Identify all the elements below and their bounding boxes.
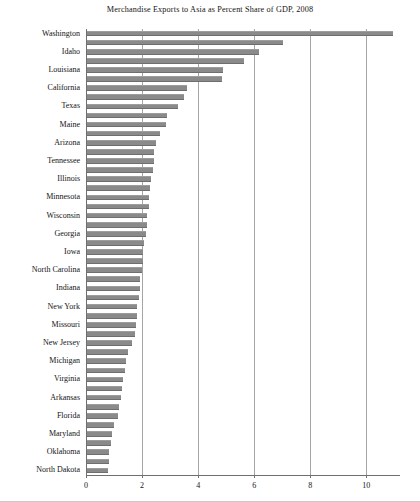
category-label: Minnesota	[46, 193, 80, 201]
gridline-10	[366, 29, 367, 475]
category-label: Iowa	[64, 248, 80, 256]
bar-fill	[87, 331, 135, 337]
bar-fill	[87, 431, 112, 437]
bar	[87, 176, 151, 182]
category-label: Michigan	[49, 357, 80, 365]
bar	[87, 76, 222, 82]
tick-mark-8	[310, 475, 311, 478]
tick-mark-10	[366, 475, 367, 478]
bar	[87, 304, 137, 310]
bar	[87, 349, 128, 355]
bar	[87, 240, 144, 246]
tick-mark-2	[142, 475, 143, 478]
bar	[87, 358, 126, 364]
category-label: North Carolina	[32, 266, 80, 274]
bar-fill	[87, 459, 109, 465]
category-label: Indiana	[56, 284, 80, 292]
bar-fill	[87, 185, 150, 191]
bar-fill	[87, 313, 137, 319]
category-label: Missouri	[52, 321, 80, 329]
bar	[87, 222, 147, 228]
bar	[87, 122, 166, 128]
category-label: North Dakota	[36, 466, 80, 474]
bar	[87, 40, 283, 46]
category-label: Maryland	[49, 430, 80, 438]
category-label: Louisiana	[48, 66, 80, 74]
bar-fill	[87, 58, 244, 64]
bar-fill	[87, 340, 132, 346]
bar-fill	[87, 468, 108, 474]
bar	[87, 67, 223, 73]
category-label: Georgia	[54, 230, 80, 238]
plot-area: 0246810	[86, 29, 400, 475]
bar	[87, 449, 109, 455]
bar-fill	[87, 140, 156, 146]
bar	[87, 295, 139, 301]
bar	[87, 377, 123, 383]
bar-fill	[87, 94, 184, 100]
bar	[87, 249, 143, 255]
bar-fill	[87, 240, 144, 246]
gridline-8	[310, 29, 311, 475]
chart-figure: Merchandise Exports to Asia as Percent S…	[0, 0, 420, 502]
bar-fill	[87, 158, 154, 164]
bar-fill	[87, 386, 122, 392]
category-label: Texas	[61, 102, 80, 110]
category-label: Idaho	[62, 48, 80, 56]
bar	[87, 149, 154, 155]
bar	[87, 195, 149, 201]
bar	[87, 58, 244, 64]
bar-fill	[87, 368, 125, 374]
category-label: Arizona	[54, 139, 80, 147]
x-tick-label: 8	[308, 481, 312, 490]
bar	[87, 167, 153, 173]
category-label: Wisconsin	[47, 212, 80, 220]
bar-fill	[87, 231, 146, 237]
bar-fill	[87, 213, 147, 219]
bar	[87, 231, 146, 237]
category-label: Virginia	[54, 375, 80, 383]
bar-fill	[87, 149, 154, 155]
bar	[87, 422, 114, 428]
bar-fill	[87, 449, 109, 455]
bar-fill	[87, 113, 167, 119]
category-label: California	[48, 84, 80, 92]
category-label: Florida	[57, 412, 80, 420]
bar-fill	[87, 85, 187, 91]
bar-fill	[87, 258, 143, 264]
bar-fill	[87, 76, 222, 82]
bar	[87, 276, 140, 282]
bar	[87, 340, 132, 346]
bar	[87, 459, 109, 465]
bar-fill	[87, 413, 118, 419]
bar-fill	[87, 322, 136, 328]
bar	[87, 331, 135, 337]
bar	[87, 140, 156, 146]
bar-fill	[87, 167, 153, 173]
bar	[87, 113, 167, 119]
gridline-4	[198, 29, 199, 475]
bar	[87, 185, 150, 191]
bar	[87, 131, 160, 137]
bar	[87, 286, 140, 292]
category-label: New York	[48, 303, 80, 311]
bar-fill	[87, 131, 160, 137]
bar-fill	[87, 40, 283, 46]
x-axis-line	[86, 475, 400, 476]
tick-mark-0	[86, 475, 87, 478]
bar-fill	[87, 349, 128, 355]
bar	[87, 94, 184, 100]
category-label: Maine	[60, 121, 80, 129]
bar-fill	[87, 176, 151, 182]
x-tick-label: 2	[140, 481, 144, 490]
bar-fill	[87, 358, 126, 364]
bar-fill	[87, 267, 142, 273]
category-label: Tennessee	[47, 157, 80, 165]
x-tick-label: 0	[84, 481, 88, 490]
bar	[87, 404, 119, 410]
x-tick-label: 6	[252, 481, 256, 490]
category-label: New Jersey	[43, 339, 80, 347]
bar-fill	[87, 304, 137, 310]
bar	[87, 213, 147, 219]
chart-title: Merchandise Exports to Asia as Percent S…	[0, 5, 420, 14]
